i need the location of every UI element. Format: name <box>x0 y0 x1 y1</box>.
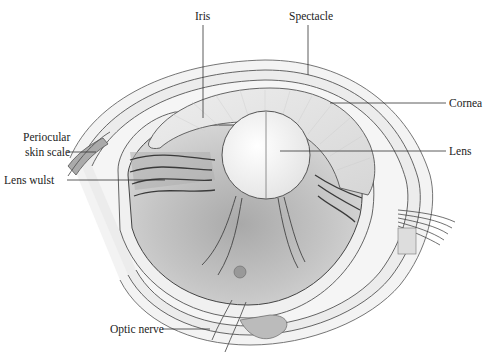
ciliary-block <box>398 228 416 254</box>
label-cornea: Cornea <box>449 97 482 109</box>
label-iris: Iris <box>195 10 211 22</box>
fovea-bump <box>234 266 246 278</box>
snake-eye-diagram: Iris Spectacle Cornea Lens Periocular sk… <box>0 0 498 364</box>
lens <box>222 111 310 199</box>
label-periocular-line2: skin scale <box>25 146 70 158</box>
label-optic-nerve: Optic nerve <box>110 323 164 336</box>
label-lens: Lens <box>449 145 472 157</box>
label-periocular-line1: Periocular <box>23 131 70 143</box>
label-lens-wulst: Lens wulst <box>4 174 55 186</box>
label-spectacle: Spectacle <box>289 10 333 23</box>
